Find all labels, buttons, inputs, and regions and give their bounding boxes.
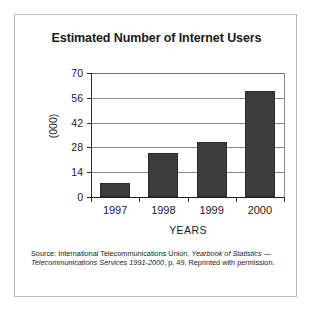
x-tick-mark-0 bbox=[91, 197, 92, 202]
bar-1998[interactable] bbox=[148, 153, 178, 197]
chart-figure: Estimated Number of Internet Users (000)… bbox=[14, 14, 297, 297]
y-tick-mark-70 bbox=[87, 73, 92, 74]
y-tick-mark-56 bbox=[87, 98, 92, 99]
x-tick-mark-1 bbox=[139, 197, 140, 202]
source-note: Source: International Telecommunications… bbox=[31, 249, 287, 268]
source-prefix: Source: International Telecommunications… bbox=[31, 249, 192, 258]
bar-1997[interactable] bbox=[100, 183, 130, 197]
bar-1999[interactable] bbox=[197, 142, 227, 197]
y-tick-label-70: 70 bbox=[43, 67, 83, 79]
y-tick-label-56: 56 bbox=[43, 92, 83, 104]
y-tick-label-14: 14 bbox=[43, 166, 83, 178]
x-tick-mark-3 bbox=[236, 197, 237, 202]
y-tick-mark-42 bbox=[87, 123, 92, 124]
right-axis-line bbox=[284, 73, 285, 198]
source-middle: — bbox=[262, 249, 271, 258]
gridline-70 bbox=[91, 73, 284, 74]
source-suffix: , p. 49. Reprinted with permission. bbox=[164, 258, 274, 267]
y-tick-label-28: 28 bbox=[43, 141, 83, 153]
x-tick-mark-end bbox=[284, 197, 285, 202]
x-tick-mark-2 bbox=[188, 197, 189, 202]
source-italic-title-2: Telecommunications Services 1991-2000 bbox=[31, 258, 164, 267]
source-italic-title-1: Yearbook of Statistics bbox=[192, 249, 262, 258]
y-tick-label-0: 0 bbox=[43, 191, 83, 203]
x-axis-title: YEARS bbox=[91, 224, 285, 236]
bar-2000[interactable] bbox=[245, 91, 275, 197]
x-tick-label-2000: 2000 bbox=[232, 204, 288, 216]
y-tick-mark-28 bbox=[87, 147, 92, 148]
plot-area bbox=[91, 73, 284, 197]
y-tick-label-42: 42 bbox=[43, 117, 83, 129]
y-tick-mark-14 bbox=[87, 172, 92, 173]
